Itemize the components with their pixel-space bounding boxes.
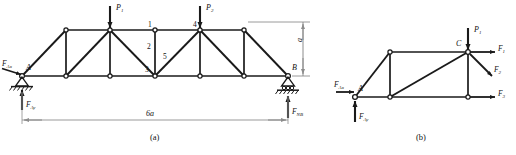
point-label-c-b: C (456, 40, 461, 48)
truss-b-members (355, 52, 468, 97)
reaction-label-fay-b: FAy (359, 113, 369, 121)
support-label-a: A (26, 64, 31, 72)
reaction-label-fay-a: FAy (26, 101, 36, 109)
span-dimension-line (22, 92, 288, 124)
internal-force-label-f3: F3 (498, 90, 505, 98)
load-arrows-a (110, 6, 200, 28)
member-label-1: 1 (148, 21, 152, 29)
load-label-p1-b: P1 (474, 26, 481, 34)
point-label-a-b: A (358, 85, 363, 93)
caption-b: (b) (416, 133, 426, 142)
support-label-b: B (292, 64, 297, 72)
member-label-4: 4 (193, 21, 197, 29)
internal-force-label-f2: F2 (494, 66, 501, 74)
truss-b-joints (353, 50, 471, 100)
reaction-label-fax-a: FAx (2, 60, 12, 68)
figure-container: P1 P2 FAx FAy FNB A B 1 2 3 4 5 6a a (a)… (0, 0, 516, 155)
truss-diagrams-canvas (0, 0, 516, 155)
reaction-label-fnb-a: FNB (292, 108, 303, 116)
member-label-5: 5 (163, 53, 167, 61)
reaction-label-fax-b: FAx (334, 81, 344, 89)
span-dimension-label: 6a (146, 110, 154, 118)
member-label-3: 3 (145, 66, 149, 74)
member-label-2: 2 (147, 43, 151, 51)
load-label-p2-a: P2 (206, 4, 213, 12)
height-dimension-label: a (296, 38, 304, 42)
truss-a-members (22, 30, 288, 76)
load-label-p1-a: P1 (116, 4, 123, 12)
internal-force-label-f1: F1 (498, 45, 505, 53)
force-arrows-b (336, 28, 495, 122)
caption-a: (a) (150, 133, 159, 142)
